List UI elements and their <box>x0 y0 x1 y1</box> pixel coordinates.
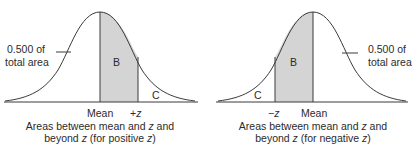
left-z-label: +z <box>130 107 142 119</box>
right-caption-line2: beyond z (for negative z) <box>255 132 371 144</box>
right-area-note-line1: 0.500 of <box>368 43 406 55</box>
left-area-note-line2: total area <box>5 56 49 68</box>
left-region-b-label: B <box>113 56 120 68</box>
right-region-b-label: B <box>290 56 297 68</box>
left-mean-label: Mean <box>87 107 113 119</box>
left-area-note-line1: 0.500 of <box>7 43 45 55</box>
left-region-c-label: C <box>152 89 160 101</box>
normal-distribution-diagrams: 0.500 of total area B C Mean +z Areas be… <box>0 0 415 145</box>
left-panel-positive-z: 0.500 of total area B C Mean +z Areas be… <box>4 12 198 144</box>
right-caption-line1: Areas between mean and z and <box>239 120 387 132</box>
right-region-c-label: C <box>254 89 262 101</box>
left-caption-line1: Areas between mean and z and <box>26 120 174 132</box>
right-area-note-line2: total area <box>368 56 412 68</box>
right-z-label: −z <box>268 107 280 119</box>
right-panel-negative-z: 0.500 of total area B C −z Mean Areas be… <box>216 12 412 144</box>
left-caption-line2: beyond z (for positive z) <box>44 132 155 144</box>
right-mean-label: Mean <box>301 107 327 119</box>
